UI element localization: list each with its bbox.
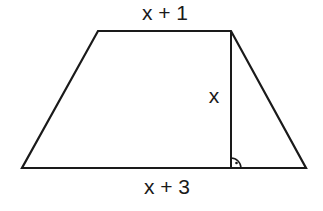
- bottom-side-label: x + 3: [144, 175, 190, 198]
- trapezoid-diagram: x + 1 x + 3 x: [0, 0, 323, 211]
- top-side-label: x + 1: [142, 1, 188, 24]
- trapezoid-shape: [22, 31, 306, 168]
- right-angle-dot-icon: [235, 162, 238, 165]
- height-label: x: [209, 84, 220, 107]
